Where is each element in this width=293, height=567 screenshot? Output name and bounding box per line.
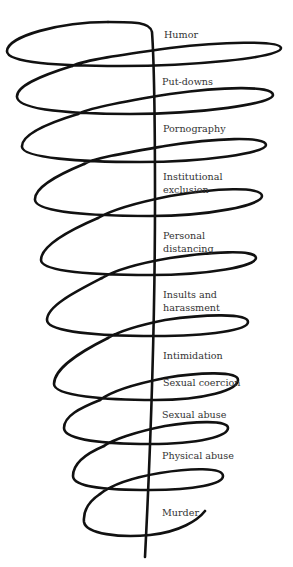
- label-line: distancing: [163, 242, 214, 255]
- label-sexual-abuse: Sexual abuse: [162, 408, 226, 421]
- spine-axis: [108, 22, 155, 557]
- label-line: Pornography: [163, 122, 226, 135]
- label-line: Humor: [164, 28, 198, 41]
- label-line: Intimidation: [163, 349, 223, 362]
- label-line: Sexual coercion: [163, 376, 241, 389]
- spiral-loop-1: [7, 22, 281, 66]
- label-line: Institutional: [163, 170, 223, 183]
- spiral-line: [7, 22, 281, 536]
- label-line: Insults and: [163, 288, 220, 301]
- spiral-loop-3: [22, 114, 266, 164]
- label-intimidation: Intimidation: [163, 349, 223, 362]
- label-line: harassment: [163, 301, 220, 314]
- label-line: Murder: [162, 506, 199, 519]
- label-sexual-coercion: Sexual coercion: [163, 376, 241, 389]
- spiral-loop-4: [35, 164, 262, 218]
- label-line: Physical abuse: [162, 449, 234, 462]
- label-line: Sexual abuse: [162, 408, 226, 421]
- spiral-diagram: [0, 0, 293, 567]
- label-line: Personal: [163, 229, 214, 242]
- label-murder: Murder: [162, 506, 199, 519]
- spiral-loop-2: [17, 66, 273, 114]
- label-institutional-exclusion: Institutional exclusion: [163, 170, 223, 196]
- label-personal-distancing: Personal distancing: [163, 229, 214, 255]
- label-insults-harassment: Insults and harassment: [163, 288, 220, 314]
- label-line: Put-downs: [162, 75, 213, 88]
- label-physical-abuse: Physical abuse: [162, 449, 234, 462]
- spiral-loop-8: [64, 400, 228, 446]
- label-humor: Humor: [164, 28, 198, 41]
- label-pornography: Pornography: [163, 122, 226, 135]
- label-put-downs: Put-downs: [162, 75, 213, 88]
- spiral-loop-5: [41, 218, 256, 278]
- label-line: exclusion: [163, 183, 223, 196]
- spiral-loop-7: [54, 338, 238, 400]
